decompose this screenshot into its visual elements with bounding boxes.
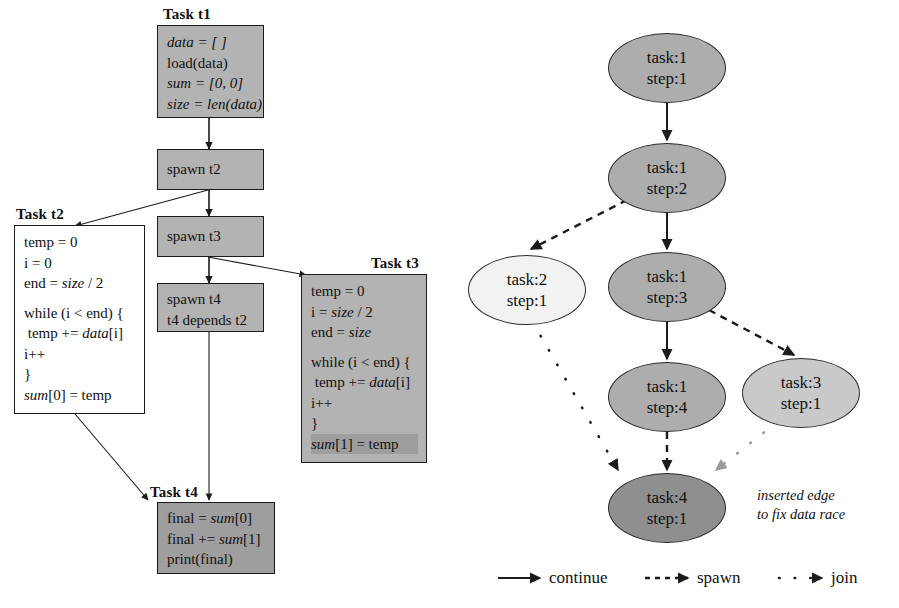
- graph-node-task1-step4[interactable]: task:1 step:4: [608, 362, 726, 432]
- code-line: }: [311, 413, 418, 434]
- code-line: temp += data[i]: [24, 323, 136, 344]
- code-line-blank: [311, 343, 418, 352]
- code-line: temp = 0: [24, 232, 136, 253]
- inserted-edge-annotation-line2: to fix data race: [757, 505, 845, 524]
- code-line-blank: [24, 294, 136, 303]
- code-line: t4 depends t2: [167, 310, 255, 331]
- node-step-label: step:1: [507, 290, 548, 311]
- node-task-label: task:1: [647, 47, 688, 68]
- code-box-spawn-t3[interactable]: spawn t3: [157, 216, 264, 257]
- node-step-label: step:4: [647, 397, 688, 418]
- code-line: while (i < end) {: [24, 303, 136, 324]
- node-step-label: step:1: [647, 68, 688, 89]
- graph-node-task2-step1[interactable]: task:2 step:1: [468, 255, 586, 325]
- graph-edge-spawn-to-task2: [531, 200, 627, 249]
- legend-label-spawn: spawn: [697, 568, 740, 588]
- graph-node-task1-step2[interactable]: task:1 step:2: [608, 143, 726, 213]
- code-line: i = 0: [24, 253, 136, 274]
- node-task-label: task:2: [507, 269, 548, 290]
- code-line: temp = 0: [311, 281, 418, 302]
- code-box-spawn-t2[interactable]: spawn t2: [157, 149, 264, 190]
- code-line: data = [ ]: [167, 32, 255, 53]
- code-line: size = len(data): [167, 94, 255, 115]
- code-line: spawn t3: [167, 226, 255, 247]
- code-line: final = sum[0]: [167, 508, 266, 529]
- code-line: print(final): [167, 549, 266, 570]
- code-line: end = size / 2: [24, 273, 136, 294]
- code-box-t1[interactable]: data = [ ] load(data) sum = [0, 0] size …: [157, 25, 264, 118]
- task-label-t3: Task t3: [371, 255, 419, 272]
- node-task-label: task:4: [647, 487, 688, 508]
- node-task-label: task:3: [781, 372, 822, 393]
- code-line: i = size / 2: [311, 302, 418, 323]
- graph-edge-join-task2-to-task4: [524, 307, 618, 470]
- code-line: spawn t2: [167, 159, 255, 180]
- graph-node-task3-step1[interactable]: task:3 step:1: [742, 358, 860, 428]
- figure-canvas: Task t1 data = [ ] load(data) sum = [0, …: [0, 0, 899, 608]
- legend-label-join: join: [831, 568, 857, 588]
- node-task-label: task:1: [647, 157, 688, 178]
- code-line: end = size: [311, 322, 418, 343]
- code-line: temp += data[i]: [311, 372, 418, 393]
- code-box-spawn-t4[interactable]: spawn t4 t4 depends t2: [157, 283, 264, 332]
- inserted-edge-annotation-line1: inserted edge: [757, 486, 835, 505]
- legend-label-continue: continue: [549, 568, 608, 588]
- graph-node-task1-step1[interactable]: task:1 step:1: [608, 33, 726, 103]
- code-box-t4[interactable]: final = sum[0] final += sum[1] print(fin…: [157, 502, 275, 574]
- code-box-t3[interactable]: temp = 0 i = size / 2 end = size while (…: [301, 274, 427, 463]
- flow-edge-taskt2-to-taskt4: [75, 414, 148, 500]
- code-box-t2[interactable]: temp = 0 i = 0 end = size / 2 while (i <…: [14, 225, 145, 414]
- code-line: sum[0] = temp: [24, 385, 136, 406]
- node-step-label: step:1: [647, 508, 688, 529]
- task-label-t4: Task t4: [150, 484, 198, 501]
- task-label-t1: Task t1: [163, 6, 211, 23]
- code-line: final += sum[1]: [167, 529, 266, 550]
- node-step-label: step:1: [781, 393, 822, 414]
- code-line: sum = [0, 0]: [167, 73, 255, 94]
- code-line: load(data): [167, 53, 255, 74]
- node-step-label: step:3: [647, 287, 688, 308]
- graph-node-task1-step3[interactable]: task:1 step:3: [608, 252, 726, 322]
- node-task-label: task:1: [647, 266, 688, 287]
- node-step-label: step:2: [647, 178, 688, 199]
- task-label-t2: Task t2: [16, 206, 64, 223]
- node-task-label: task:1: [647, 376, 688, 397]
- code-line: spawn t4: [167, 289, 255, 310]
- code-line: i++: [311, 393, 418, 414]
- code-line: while (i < end) {: [311, 352, 418, 373]
- flow-edge-spawnt3-to-taskt3: [208, 257, 306, 275]
- code-line: }: [24, 364, 136, 385]
- code-line-highlighted: sum[1] = temp: [311, 434, 418, 455]
- graph-node-task4-step1[interactable]: task:4 step:1: [608, 473, 726, 543]
- graph-edge-spawn-to-task3: [709, 310, 794, 355]
- code-line: i++: [24, 344, 136, 365]
